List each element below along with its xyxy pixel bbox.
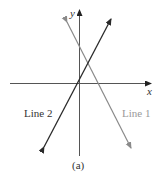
figure-caption: (a) (72, 159, 85, 172)
line-1-label: Line 1 (122, 107, 150, 119)
y-axis-label: y (69, 7, 75, 19)
x-axis-label: x (146, 85, 152, 97)
line-2-label: Line 2 (24, 107, 52, 119)
line-diagram: y x Line 2 Line 1 (a) (0, 0, 163, 181)
